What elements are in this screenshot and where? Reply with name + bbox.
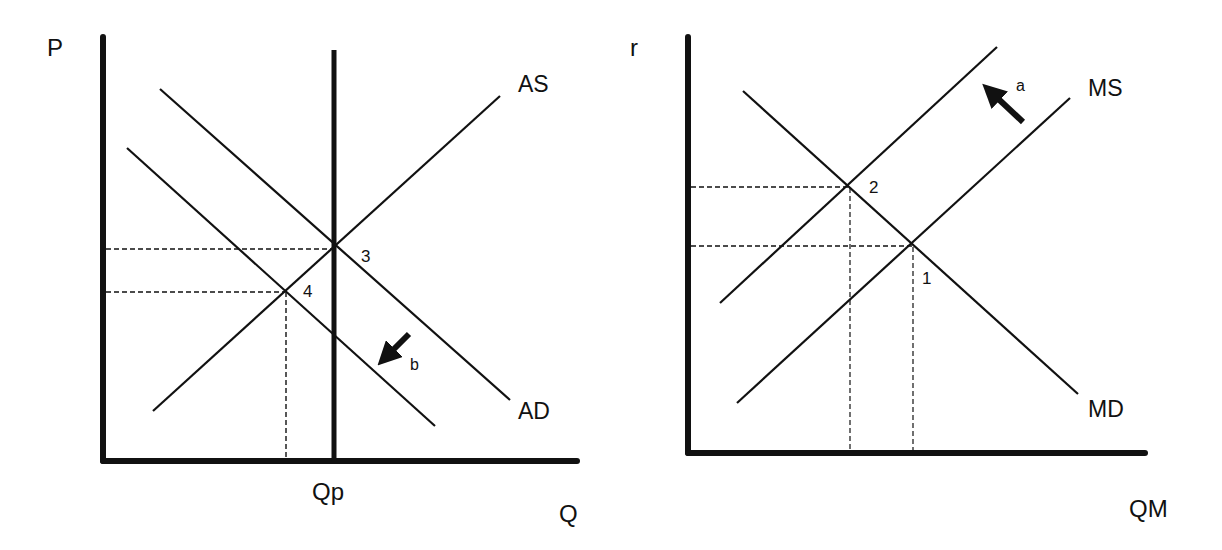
potential-output-label: Qp xyxy=(312,478,344,505)
shift-arrow-a-icon xyxy=(991,92,1023,122)
md-curve-label: MD xyxy=(1088,396,1124,422)
money-quantity-axis-label: QM xyxy=(1129,495,1168,522)
point-3-label: 3 xyxy=(361,247,370,266)
interest-rate-axis-label: r xyxy=(630,34,638,61)
ms-curve-label: MS xyxy=(1088,75,1123,101)
point-1-label: 1 xyxy=(922,269,931,288)
ad-curve-shifted xyxy=(127,148,435,426)
diagram-canvas: P Q Qp AS AD 3 4 b r QM MS MD 2 1 a xyxy=(0,0,1222,550)
money-market-panel: r QM MS MD 2 1 a xyxy=(630,34,1168,522)
ad-as-panel: P Q Qp AS AD 3 4 b xyxy=(47,34,578,527)
as-curve xyxy=(153,96,500,411)
shift-arrow-a-label: a xyxy=(1016,77,1025,94)
point-4-label: 4 xyxy=(303,282,312,301)
ms-curve-shifted xyxy=(720,47,997,303)
point-2-label: 2 xyxy=(869,178,878,197)
as-curve-label: AS xyxy=(518,71,549,97)
price-axis-label: P xyxy=(47,34,63,61)
ms-curve-original xyxy=(737,98,1070,403)
shift-arrow-b-label: b xyxy=(410,356,419,373)
ad-curve-label: AD xyxy=(518,398,550,424)
quantity-axis-label: Q xyxy=(559,500,578,527)
shift-arrow-b-icon xyxy=(386,334,409,357)
